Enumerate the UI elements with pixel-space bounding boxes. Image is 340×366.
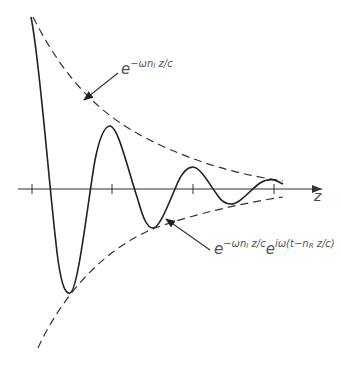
wave-pointer-arrow — [166, 219, 210, 250]
z-axis — [18, 184, 322, 194]
wave-exp2-prefix: iω(t−n — [275, 238, 309, 249]
upper-envelope-curve — [33, 17, 283, 181]
wave-exp1-suffix: z/c — [248, 238, 265, 249]
wave-exp1-prefix: −ωn — [223, 238, 246, 249]
wave-label-base2: e — [266, 240, 275, 258]
envelope-label: e−ωnI z/c — [121, 58, 173, 78]
envelope-exp-prefix: −ωn — [130, 58, 153, 69]
envelope-exp-suffix: z/c — [155, 58, 172, 69]
wave-exp2-suffix: z/c) — [314, 238, 335, 249]
envelope-pointer-arrow — [84, 73, 118, 100]
z-axis-label: z — [314, 188, 321, 204]
wave-label-base1: e — [214, 240, 223, 258]
damped-wave-diagram — [0, 0, 340, 366]
envelope-label-base: e — [121, 60, 130, 78]
wave-label: e−ωnI z/ceiω(t−nR z/c) — [214, 238, 335, 258]
